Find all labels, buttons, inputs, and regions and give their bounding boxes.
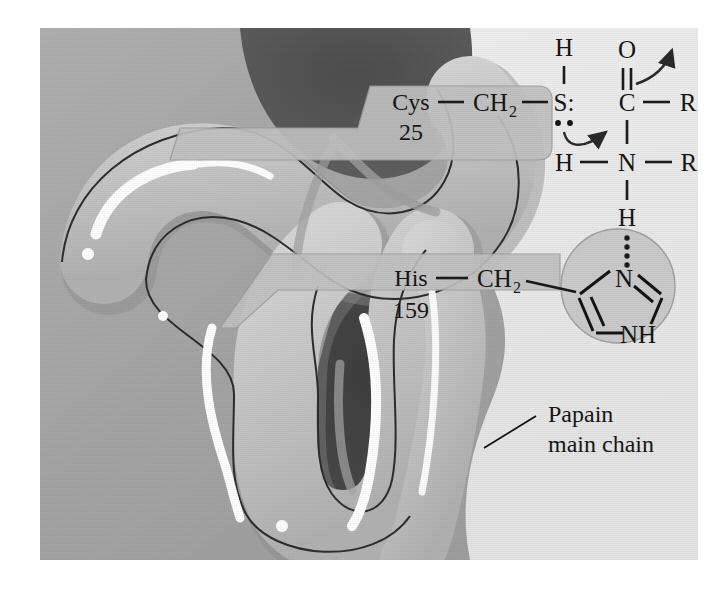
cys-ch2-subscript: 2	[509, 103, 517, 120]
r-prime-group-label: R'	[680, 149, 698, 176]
hbond-dot-2	[624, 244, 629, 249]
cys-thiol-hydrogen: H	[555, 34, 573, 61]
callout-label-line1: Papain	[548, 401, 613, 427]
lone-pair-dot-2	[567, 120, 573, 126]
hbond-dot-3	[624, 253, 629, 258]
bridging-hydrogen-atom: H	[618, 204, 636, 231]
carbonyl-carbon-atom: C	[619, 89, 636, 116]
amide-nitrogen-atom: N	[618, 149, 636, 176]
his-ch2-subscript: 2	[513, 279, 521, 296]
cys-sulfur-atom: S:	[554, 89, 575, 116]
cys-residue-number: 25	[399, 119, 423, 145]
imidazole-n-atom: N	[615, 265, 633, 292]
r-group-label: R	[680, 89, 697, 116]
cys-ch2-label: CH	[473, 89, 508, 116]
cys-residue-label: Cys	[392, 89, 429, 115]
carbonyl-oxygen-atom: O	[618, 36, 636, 63]
hbond-dot-1	[624, 235, 629, 240]
his-residue-number: 159	[393, 297, 429, 323]
highlight-dot-lower-u	[276, 520, 288, 532]
amide-hydrogen-atom: H	[555, 149, 573, 176]
his-ch2-label: CH	[477, 265, 512, 292]
figure-canvas: Cys 25 CH 2 H S:	[40, 28, 698, 560]
callout-label-line2: main chain	[548, 431, 654, 457]
his-residue-label: His	[394, 265, 427, 291]
papain-active-site-figure: Cys 25 CH 2 H S:	[40, 28, 698, 560]
highlight-dot-mid-left	[158, 311, 168, 321]
highlight-dot-upper-left	[82, 248, 94, 260]
lone-pair-dot-1	[555, 120, 561, 126]
figure-page: Cys 25 CH 2 H S:	[0, 0, 726, 592]
imidazole-nh-atom: NH	[620, 321, 656, 348]
